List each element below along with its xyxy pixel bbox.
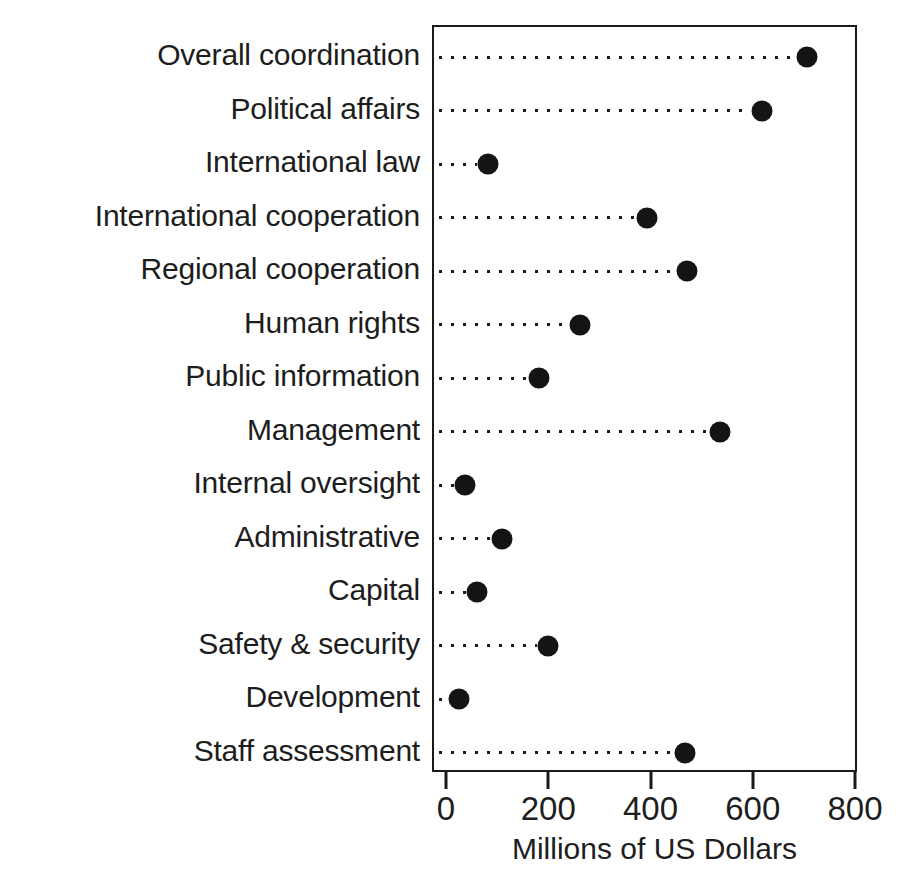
x-axis-tick-label: 600 xyxy=(725,792,780,825)
dot-plot-chart: Overall coordinationPolitical affairsInt… xyxy=(0,0,906,891)
x-axis-tick xyxy=(547,772,550,789)
category-label: Administrative xyxy=(234,522,420,552)
leader-line xyxy=(439,591,466,594)
leader-line xyxy=(439,270,676,273)
data-point[interactable] xyxy=(477,154,498,175)
leader-line xyxy=(439,698,448,701)
data-point[interactable] xyxy=(637,207,658,228)
data-point[interactable] xyxy=(674,742,695,763)
leader-line xyxy=(439,377,528,380)
leader-line xyxy=(439,751,674,754)
data-point[interactable] xyxy=(677,261,698,282)
leader-line xyxy=(439,537,491,540)
leader-line xyxy=(439,163,477,166)
x-axis-title: Millions of US Dollars xyxy=(432,833,877,865)
leader-line xyxy=(439,644,537,647)
x-axis-tick xyxy=(649,772,652,789)
leader-line xyxy=(439,56,796,59)
data-point[interactable] xyxy=(491,528,512,549)
x-axis-tick xyxy=(751,772,754,789)
category-label: International cooperation xyxy=(95,201,420,231)
category-label: Staff assessment xyxy=(194,736,420,766)
category-label: Safety & security xyxy=(198,629,420,659)
category-label: Internal oversight xyxy=(193,468,420,498)
x-axis-tick-label: 400 xyxy=(623,792,678,825)
leader-line xyxy=(439,430,709,433)
category-label: Development xyxy=(245,682,420,712)
leader-line xyxy=(439,109,751,112)
category-label: Public information xyxy=(185,361,420,391)
data-point[interactable] xyxy=(710,421,731,442)
data-point[interactable] xyxy=(529,368,550,389)
data-point[interactable] xyxy=(752,100,773,121)
category-label: Regional cooperation xyxy=(140,254,420,284)
x-axis-tick xyxy=(445,772,448,789)
category-label: Overall coordination xyxy=(157,40,420,70)
category-label: Political affairs xyxy=(231,94,420,124)
x-axis-tick-label: 800 xyxy=(827,792,882,825)
data-point[interactable] xyxy=(449,689,470,710)
plot-area xyxy=(432,25,857,772)
category-label: International law xyxy=(205,147,420,177)
data-point[interactable] xyxy=(797,47,818,68)
x-axis-tick xyxy=(854,772,857,789)
category-label: Human rights xyxy=(244,308,420,338)
x-axis-tick-label: 200 xyxy=(521,792,576,825)
x-axis-tick-label: 0 xyxy=(437,792,455,825)
leader-line xyxy=(439,484,454,487)
leader-line xyxy=(439,216,636,219)
leader-line xyxy=(439,323,569,326)
category-label: Management xyxy=(247,415,420,445)
data-point[interactable] xyxy=(538,635,559,656)
data-point[interactable] xyxy=(467,582,488,603)
data-point[interactable] xyxy=(569,314,590,335)
category-label: Capital xyxy=(328,575,420,605)
data-point[interactable] xyxy=(454,475,475,496)
